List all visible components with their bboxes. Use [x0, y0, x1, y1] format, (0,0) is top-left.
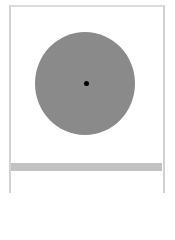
divider-bar — [11, 163, 162, 171]
center-point-dot — [84, 81, 89, 86]
